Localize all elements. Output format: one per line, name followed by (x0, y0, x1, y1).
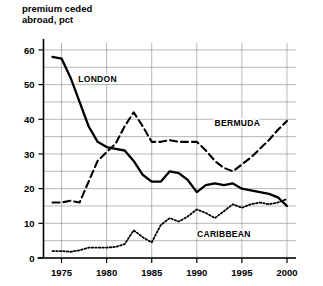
x-tick-label: 1975 (51, 267, 73, 278)
y-tick-label: 50 (24, 79, 35, 90)
series-label-bermuda: BERMUDA (215, 118, 261, 128)
x-tick-label: 1980 (96, 267, 117, 278)
y-tick-label: 20 (24, 183, 35, 194)
y-tick-label: 40 (24, 114, 35, 125)
y-tick-label: 10 (24, 218, 35, 229)
series-label-caribbean: CARIBBEAN (197, 229, 251, 239)
x-tick-label: 1990 (186, 267, 207, 278)
x-tick-labels-group: 197519801985199019952000 (51, 267, 298, 278)
series-line-caribbean (53, 199, 287, 252)
y-tick-label: 60 (24, 45, 35, 56)
series-group (53, 57, 287, 252)
x-tick-label: 1985 (141, 267, 163, 278)
x-tick-label: 2000 (276, 267, 297, 278)
series-label-london: LONDON (78, 74, 117, 84)
y-tick-label: 0 (29, 253, 34, 264)
x-tick-label: 1995 (231, 267, 253, 278)
y-tick-label: 30 (24, 149, 35, 160)
chart-figure: premium ceded abroad, pct 0102030405060 … (0, 0, 323, 286)
chart-plot-area: 0102030405060 197519801985199019952000 L… (0, 0, 323, 286)
y-tick-labels-group: 0102030405060 (24, 45, 35, 264)
series-labels-group: LONDONLONDONBERMUDABERMUDACARIBBEANCARIB… (78, 74, 260, 238)
